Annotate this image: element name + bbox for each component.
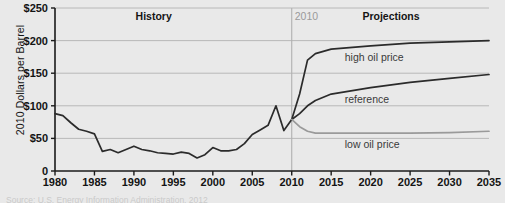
y-tick-label: $200 (0, 35, 48, 47)
y-tick-label: $100 (0, 100, 48, 112)
plot-area (0, 0, 505, 203)
projections-region-label: Projections (362, 10, 419, 22)
history-region-label: History (136, 10, 172, 22)
y-tick-label: $150 (0, 67, 48, 79)
x-tick-label: 2035 (466, 176, 505, 188)
source-note: Source: U.S. Energy Information Administ… (6, 195, 208, 203)
series-label-high-oil-price: high oil price (345, 51, 404, 63)
y-tick-label: $250 (0, 2, 48, 14)
oil-price-projection-chart: 2010 Dollars per Barrel $250$200$150$100… (0, 0, 505, 203)
series-label-low-oil-price: low oil price (345, 138, 400, 150)
y-tick-label: $50 (0, 132, 48, 144)
divider-year-label: 2010 (295, 10, 318, 22)
series-label-reference: reference (345, 93, 389, 105)
